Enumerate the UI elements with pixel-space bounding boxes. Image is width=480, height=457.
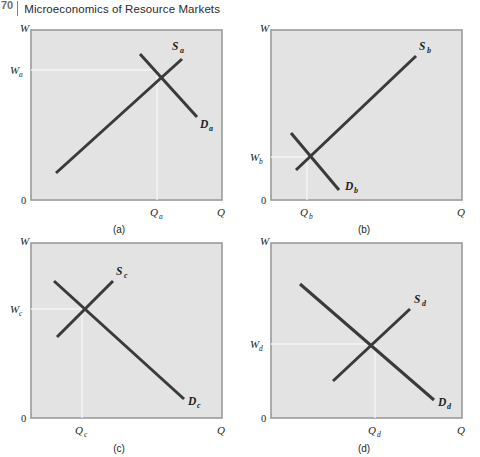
equilibrium-quantity-sub-d: d	[377, 430, 381, 439]
chart-panel-d: W 0 Q W d Q d S d D d (d)	[244, 231, 480, 457]
equilibrium-quantity-label-b: Q	[300, 206, 308, 218]
page-folio: 70	[0, 0, 13, 11]
equilibrium-quantity-label-d: Q	[368, 424, 376, 436]
supply-label-c: S	[116, 265, 122, 277]
supply-label-a: S	[172, 40, 178, 52]
panel-caption-d: (d)	[358, 443, 370, 454]
y-axis-label-c: W	[20, 235, 30, 247]
equilibrium-wage-sub-b: b	[259, 157, 263, 166]
running-head: 70 Microeconomics of Resource Markets	[0, 0, 480, 17]
y-axis-label-d: W	[260, 235, 270, 247]
equilibrium-quantity-sub-c: c	[84, 430, 88, 439]
supply-sub-c: c	[124, 271, 128, 280]
y-axis-label-a: W	[20, 22, 30, 34]
panel-caption-c: (c)	[113, 443, 125, 454]
running-head-title: Microeconomics of Resource Markets	[24, 3, 220, 15]
equilibrium-wage-sub-c: c	[19, 309, 23, 318]
demand-sub-a: a	[209, 124, 213, 133]
x-axis-label-d: Q	[457, 424, 465, 436]
equilibrium-quantity-sub-a: a	[159, 212, 163, 221]
chart-panel-b: W 0 Q W b Q b S b D b (b)	[244, 18, 480, 238]
origin-label-a: 0	[21, 195, 26, 206]
chart-panel-a: W 0 Q W a Q a S a D a (a)	[0, 18, 240, 238]
demand-sub-c: c	[197, 401, 201, 410]
equilibrium-wage-sub-a: a	[19, 70, 23, 79]
x-axis-label-c: Q	[217, 424, 225, 436]
x-axis-label-b: Q	[457, 206, 465, 218]
plot-area-d	[271, 243, 462, 418]
y-axis-label-b: W	[260, 22, 270, 34]
chart-panel-c: W 0 Q W c Q c S c D c (c)	[0, 231, 240, 457]
plot-area-b	[271, 30, 462, 200]
equilibrium-wage-sub-d: d	[259, 344, 263, 353]
equilibrium-quantity-label-c: Q	[75, 424, 83, 436]
demand-label-a: D	[199, 118, 209, 130]
plot-area-c	[31, 243, 222, 418]
demand-sub-b: b	[354, 186, 358, 195]
origin-label-b: 0	[261, 195, 266, 206]
x-axis-label-a: Q	[217, 206, 225, 218]
equilibrium-quantity-label-a: Q	[150, 206, 158, 218]
demand-label-b: D	[344, 180, 354, 192]
supply-label-b: S	[419, 40, 425, 52]
origin-label-c: 0	[21, 413, 26, 424]
demand-label-c: D	[187, 395, 197, 407]
supply-sub-a: a	[180, 46, 184, 55]
origin-label-d: 0	[261, 413, 266, 424]
running-head-divider	[17, 1, 18, 16]
equilibrium-quantity-sub-b: b	[309, 212, 313, 221]
supply-sub-b: b	[427, 46, 431, 55]
supply-label-d: S	[414, 293, 420, 305]
demand-label-d: D	[437, 396, 447, 408]
